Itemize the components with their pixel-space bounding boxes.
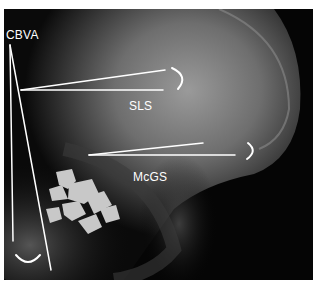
sls-label: SLS <box>129 99 152 113</box>
mcgs-label: McGS <box>133 170 167 184</box>
mcgs-upper-line <box>89 143 203 155</box>
mcgs-angle-arc <box>247 143 253 159</box>
cbva-vertical-line <box>10 45 13 241</box>
cbva-slanted-line <box>10 45 51 270</box>
sls-upper-line <box>21 70 165 90</box>
radiograph-frame: CBVA SLS McGS <box>4 9 313 280</box>
cbva-angle-arc <box>16 255 40 262</box>
sls-angle-arc <box>172 68 182 89</box>
annotation-overlay <box>4 9 313 280</box>
cbva-label: CBVA <box>6 28 39 42</box>
